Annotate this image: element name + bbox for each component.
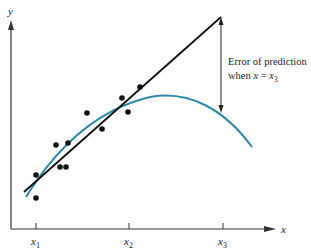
arrow-down-icon (219, 105, 224, 113)
axes: y x x1 x2 x3 (7, 5, 286, 250)
data-point (125, 109, 131, 115)
data-point (119, 95, 125, 101)
x-axis-arrow-icon (264, 226, 276, 232)
data-point (99, 126, 105, 132)
tick-label-x3: x3 (217, 235, 227, 250)
data-point (33, 195, 39, 201)
y-axis-arrow-icon (8, 20, 14, 30)
data-point (137, 84, 143, 90)
curve-true-relationship (26, 96, 252, 197)
error-arrow (219, 17, 224, 113)
data-point (53, 142, 59, 148)
data-point (65, 140, 71, 146)
annotation-line2: when x = x3 (228, 70, 278, 84)
annotation-line1: Error of prediction (228, 56, 307, 67)
x-axis-label: x (280, 223, 286, 235)
tick-label-x2: x2 (123, 235, 133, 250)
y-axis-label: y (7, 5, 13, 17)
data-point (84, 110, 90, 116)
tick-label-x1: x1 (30, 235, 40, 250)
regression-line (24, 17, 221, 192)
data-point (63, 164, 69, 170)
data-point (33, 172, 39, 178)
data-point (57, 164, 63, 170)
prediction-error-chart: y x x1 x2 x3 Error of prediction when x … (0, 0, 311, 252)
